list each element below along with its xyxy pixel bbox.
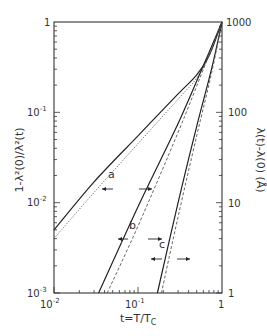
curve-label-b: b <box>129 219 136 232</box>
x-tick-label-2: 1 <box>218 299 224 310</box>
y-right-tick-label-2: 100 <box>228 107 247 118</box>
plot-border <box>54 22 222 293</box>
y-right-tick-label-0: 1 <box>228 288 234 299</box>
plot-frame <box>54 22 222 293</box>
x-tick-label-0: 10-2 <box>40 297 60 310</box>
y-left-tick-label-0: 10-3 <box>27 286 47 299</box>
curve-4 <box>157 22 222 293</box>
data-curves <box>54 22 222 293</box>
y-left-tick-label-3: 1 <box>44 17 50 28</box>
x-tick-label-1: 10-1 <box>125 297 145 310</box>
curve-label-a: a <box>108 168 115 181</box>
y-right-tick-label-3: 1000 <box>226 17 251 28</box>
y-right-tick-label-1: 10 <box>228 198 241 209</box>
y-left-tick-label-2: 10-1 <box>27 105 47 118</box>
curve-label-c: c <box>159 238 165 251</box>
y-axis-left-label: 1-λ²(0)/λ²(t) <box>13 128 26 193</box>
y-axis-right-label: λ(t)-λ(0) (Å) <box>254 127 267 192</box>
y-left-tick-label-1: 10-2 <box>27 195 47 208</box>
x-axis-label: t=T/TC <box>120 312 157 327</box>
chart: 10-2 10-1 1 10-3 10-2 10-1 1 1 10 100 10… <box>0 0 267 336</box>
axis-ticks <box>54 26 222 293</box>
